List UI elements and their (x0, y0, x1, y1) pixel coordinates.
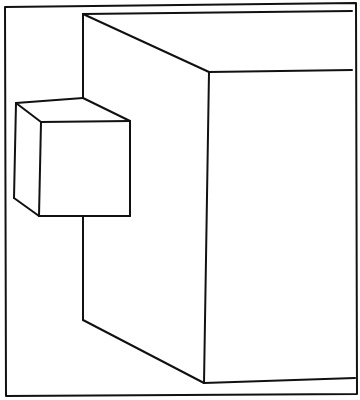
large-cube-edge (83, 320, 204, 383)
small-cube-edge (83, 98, 130, 121)
large-cube-edge (204, 378, 355, 383)
small-cube (14, 98, 130, 216)
large-cube-edge (204, 72, 209, 383)
small-cube-edge (14, 198, 39, 216)
cube-diagram (0, 0, 360, 400)
large-cube-edge (83, 14, 209, 72)
small-cube-edge (14, 103, 16, 198)
large-cube-edge (209, 70, 352, 72)
small-cube-edge (39, 122, 41, 216)
large-cube (83, 11, 355, 383)
frame-border (5, 3, 357, 396)
large-cube-edge (83, 11, 352, 14)
small-cube-edge (16, 103, 41, 122)
small-cube-edge (41, 121, 130, 122)
small-cube-edge (16, 98, 83, 103)
